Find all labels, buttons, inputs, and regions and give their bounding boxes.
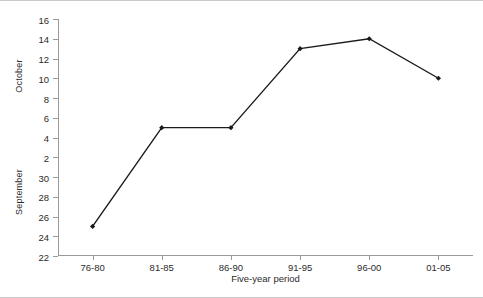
- y-tick-label: 24: [38, 231, 49, 242]
- plot-area: 1614121086423028262422 76-8081-8586-9091…: [58, 19, 473, 256]
- y-tick-label: 28: [38, 192, 49, 203]
- line-series: [58, 19, 473, 256]
- x-tick: [300, 256, 301, 260]
- y-tick-label: 22: [38, 251, 49, 262]
- x-axis-title: Five-year period: [58, 273, 473, 284]
- x-tick: [231, 256, 232, 260]
- y-tick-label: 2: [44, 152, 49, 163]
- x-tick: [162, 256, 163, 260]
- y-tick-label: 8: [44, 93, 49, 104]
- chart-figure: October September 1614121086423028262422…: [0, 0, 483, 298]
- y-tick-label: 10: [38, 73, 49, 84]
- y-tick-label: 26: [38, 212, 49, 223]
- x-tick-label: 86-90: [219, 262, 243, 273]
- x-tick-label: 81-85: [150, 262, 174, 273]
- y-tick-label: 14: [38, 34, 49, 45]
- x-tick: [93, 256, 94, 260]
- x-tick: [438, 256, 439, 260]
- x-tick: [369, 256, 370, 260]
- y-tick-label: 16: [38, 14, 49, 25]
- y-tick-label: 30: [38, 172, 49, 183]
- x-tick-label: 76-80: [80, 262, 104, 273]
- x-tick-label: 96-00: [357, 262, 381, 273]
- y-tick-label: 4: [44, 133, 49, 144]
- x-tick-label: 01-05: [426, 262, 450, 273]
- y-tick-label: 12: [38, 54, 49, 65]
- x-tick-label: 91-95: [288, 262, 312, 273]
- y-tick: 22: [53, 256, 58, 257]
- y-axis-title-september: September: [14, 117, 24, 267]
- series-line: [93, 39, 439, 227]
- y-tick-label: 6: [44, 113, 49, 124]
